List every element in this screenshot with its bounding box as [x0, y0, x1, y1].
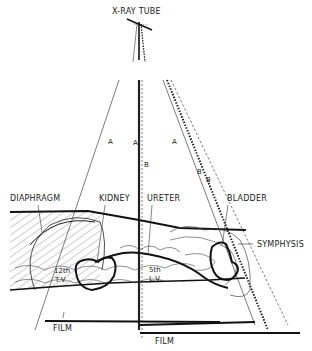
ray-a-left-label: A	[108, 138, 113, 146]
film-lower-label: FILM	[155, 337, 174, 346]
bladder-label: BLADDER	[227, 194, 267, 203]
symphysis-label: SYMPHYSIS	[257, 240, 304, 249]
vertebra-12th-sub-label: T.V.	[54, 276, 67, 284]
vertebra-5th-sub-label: L.V.	[149, 275, 161, 283]
ray-lines	[35, 80, 288, 340]
ray-b-right-label-1: B	[197, 168, 202, 176]
diaphragm-label: DIAPHRAGM	[10, 194, 60, 203]
vertebra-5th-label: 5th	[149, 266, 161, 274]
ray-a-right-label: A	[172, 138, 177, 146]
xray-projection-diagram: X-RAY TUBE A A B A B B	[0, 0, 312, 351]
xray-tube-icon	[127, 19, 152, 62]
film-upper-label: FILM	[53, 324, 72, 333]
ray-b-right-label-2: B	[206, 176, 211, 184]
ray-a-center-label: A	[133, 139, 138, 147]
film-lines	[45, 321, 300, 333]
vertebra-12th-label: 12th	[54, 267, 70, 275]
kidney-label: KIDNEY	[99, 194, 130, 203]
ureter-label: URETER	[147, 194, 180, 203]
ray-b-center-label: B	[144, 161, 149, 169]
xray-tube-label: X-RAY TUBE	[112, 7, 161, 16]
